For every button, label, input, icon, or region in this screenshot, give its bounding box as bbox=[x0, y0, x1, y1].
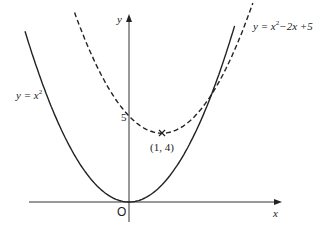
shifted-label-rest: −2x +5 bbox=[279, 20, 312, 32]
parabola-curve bbox=[25, 26, 235, 202]
vertex-label: (1, 4) bbox=[150, 142, 174, 153]
shifted-parabola-curve bbox=[75, 3, 253, 133]
x-axis-label: x bbox=[273, 208, 278, 219]
parabola-label-exp: 2 bbox=[39, 88, 43, 96]
shifted-label-eq: = x bbox=[258, 20, 276, 32]
graph-canvas bbox=[0, 0, 323, 231]
graph-figure: y x O 5 (1, 4) y = x2 y = x2−2x +5 bbox=[0, 0, 323, 231]
y-axis-arrow-icon bbox=[126, 14, 132, 22]
x-axis-arrow-icon bbox=[274, 199, 282, 205]
parabola-label-eq: = x bbox=[21, 89, 39, 101]
y-intercept-label: 5 bbox=[121, 112, 127, 123]
parabola-label: y = x2 bbox=[16, 89, 42, 101]
shifted-parabola-label: y = x2−2x +5 bbox=[253, 20, 313, 32]
origin-label: O bbox=[117, 206, 126, 218]
y-axis-label: y bbox=[117, 14, 122, 25]
